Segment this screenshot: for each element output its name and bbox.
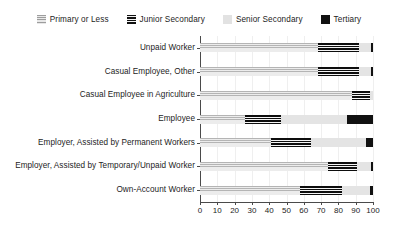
bar-segment bbox=[328, 162, 357, 171]
stacked-bar bbox=[200, 162, 373, 171]
x-axis-tick bbox=[200, 202, 201, 205]
bar-segment bbox=[359, 67, 371, 76]
category-label: Own-Account Worker bbox=[116, 185, 195, 195]
y-axis-tick bbox=[197, 48, 200, 49]
x-axis-tick bbox=[287, 202, 288, 205]
y-axis-tick bbox=[197, 119, 200, 120]
legend-label: Junior Secondary bbox=[140, 15, 205, 24]
y-axis-tick bbox=[197, 95, 200, 96]
bar-segment bbox=[371, 67, 373, 76]
y-axis-tick bbox=[197, 190, 200, 191]
category-label: Casual Employee in Agriculture bbox=[80, 90, 195, 100]
y-axis-tick bbox=[197, 143, 200, 144]
bar-segment bbox=[200, 186, 300, 195]
x-axis-tick bbox=[321, 202, 322, 205]
x-axis-tick-label: 30 bbox=[247, 206, 256, 215]
bar-segment bbox=[281, 115, 347, 124]
bar-segment bbox=[370, 186, 373, 195]
x-axis-tick bbox=[252, 202, 253, 205]
x-axis-tick-label: 20 bbox=[230, 206, 239, 215]
category-label: Employee bbox=[158, 114, 195, 124]
x-axis-tick-label: 40 bbox=[265, 206, 274, 215]
stacked-bar bbox=[200, 43, 373, 52]
legend-label: Primary or Less bbox=[50, 15, 109, 24]
senior-swatch-icon bbox=[223, 15, 232, 24]
legend-label: Senior Secondary bbox=[236, 15, 303, 24]
category-label: Unpaid Worker bbox=[140, 43, 195, 53]
stacked-bar-chart: Primary or Less Junior Secondary Senior … bbox=[0, 0, 398, 226]
legend-label: Tertiary bbox=[334, 15, 362, 24]
chart-legend: Primary or Less Junior Secondary Senior … bbox=[0, 10, 398, 28]
bar-segment bbox=[200, 115, 245, 124]
bar-segment bbox=[370, 91, 373, 100]
bar-row[interactable] bbox=[200, 162, 373, 171]
x-axis-tick-label: 80 bbox=[334, 206, 343, 215]
bar-row[interactable] bbox=[200, 115, 373, 124]
bar-row[interactable] bbox=[200, 43, 373, 52]
bar-segment bbox=[200, 138, 271, 147]
bar-segment bbox=[271, 138, 311, 147]
bar-segment bbox=[245, 115, 281, 124]
legend-item-junior-secondary[interactable]: Junior Secondary bbox=[127, 15, 205, 24]
stacked-bar bbox=[200, 138, 373, 147]
x-axis-tick-label: 10 bbox=[213, 206, 222, 215]
bar-segment bbox=[200, 67, 318, 76]
y-axis-tick bbox=[197, 166, 200, 167]
category-label: Employer, Assisted by Permanent Workers bbox=[38, 138, 195, 148]
x-axis-tick bbox=[356, 202, 357, 205]
stacked-bar bbox=[200, 91, 373, 100]
x-axis-tick bbox=[269, 202, 270, 205]
category-label: Casual Employee, Other bbox=[105, 67, 195, 77]
x-axis-tick bbox=[338, 202, 339, 205]
bar-segment bbox=[371, 162, 373, 171]
stacked-bar bbox=[200, 186, 373, 195]
bar-segment bbox=[359, 43, 371, 52]
legend-item-tertiary[interactable]: Tertiary bbox=[321, 15, 362, 24]
x-axis-tick-label: 50 bbox=[282, 206, 291, 215]
x-axis-tick-label: 90 bbox=[351, 206, 360, 215]
x-axis-tick bbox=[373, 202, 374, 205]
x-axis-tick-label: 70 bbox=[317, 206, 326, 215]
tertiary-swatch-icon bbox=[321, 15, 330, 24]
stacked-bar bbox=[200, 67, 373, 76]
gridline bbox=[373, 36, 374, 202]
x-axis-tick bbox=[235, 202, 236, 205]
bar-row[interactable] bbox=[200, 91, 373, 100]
bar-segment bbox=[300, 186, 342, 195]
bar-segment bbox=[347, 115, 373, 124]
bar-segment bbox=[318, 43, 360, 52]
bar-segment bbox=[200, 91, 352, 100]
legend-item-primary-or-less[interactable]: Primary or Less bbox=[37, 15, 109, 24]
primary-swatch-icon bbox=[37, 15, 46, 24]
x-axis-tick-label: 60 bbox=[299, 206, 308, 215]
bar-row[interactable] bbox=[200, 67, 373, 76]
bar-segment bbox=[318, 67, 360, 76]
category-label: Employer, Assisted by Temporary/Unpaid W… bbox=[15, 161, 195, 171]
bar-segment bbox=[357, 162, 371, 171]
bar-segment bbox=[371, 43, 373, 52]
y-axis-tick bbox=[197, 72, 200, 73]
legend-item-senior-secondary[interactable]: Senior Secondary bbox=[223, 15, 303, 24]
junior-swatch-icon bbox=[127, 15, 136, 24]
bar-segment bbox=[311, 138, 366, 147]
bar-segment bbox=[342, 186, 370, 195]
x-axis-tick bbox=[217, 202, 218, 205]
plot-area: 0102030405060708090100 bbox=[200, 36, 373, 202]
bar-segment bbox=[200, 43, 318, 52]
x-axis-tick bbox=[304, 202, 305, 205]
bar-segment bbox=[366, 138, 373, 147]
x-axis-tick-label: 100 bbox=[366, 206, 379, 215]
bar-row[interactable] bbox=[200, 138, 373, 147]
bar-row[interactable] bbox=[200, 186, 373, 195]
bar-segment bbox=[200, 162, 328, 171]
stacked-bar bbox=[200, 115, 373, 124]
x-axis-tick-label: 0 bbox=[198, 206, 202, 215]
bar-segment bbox=[352, 91, 369, 100]
